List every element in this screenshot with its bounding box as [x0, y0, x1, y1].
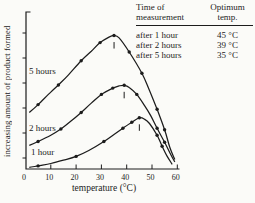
data-point — [130, 121, 133, 124]
temp-cell: 39 °C — [202, 40, 253, 50]
data-point — [123, 84, 126, 87]
data-point — [36, 140, 39, 143]
table-header-optimum: Optimum temp. — [202, 2, 253, 22]
data-point — [163, 128, 166, 131]
data-point — [102, 140, 105, 143]
temp-cell: 35 °C — [202, 50, 253, 60]
data-point — [163, 141, 166, 144]
data-point — [59, 127, 62, 130]
optimum-table-header: Time of measurement Optimum temp. — [136, 2, 253, 26]
data-point — [57, 83, 60, 86]
y-axis-label: increasing amount of product formed — [2, 12, 12, 170]
data-point — [80, 111, 83, 114]
x-tick-label: 40 — [121, 173, 129, 182]
x-tick-label: 60 — [172, 173, 180, 182]
data-point — [155, 134, 158, 137]
time-cell: after 5 hours — [136, 50, 202, 60]
data-point — [135, 93, 138, 96]
table-row: after 2 hours 39 °C — [136, 40, 253, 50]
temp-cell: 45 °C — [202, 30, 253, 40]
data-point — [111, 86, 114, 89]
data-point — [36, 103, 39, 106]
table-row: after 1 hour 45 °C — [136, 30, 253, 40]
series-label: 5 hours — [29, 66, 56, 76]
data-point — [155, 127, 158, 130]
data-point — [121, 127, 124, 130]
data-point — [128, 50, 131, 53]
x-tick-label: 20 — [71, 173, 79, 182]
table-header-time: Time of measurement — [136, 2, 202, 22]
enzyme-temperature-figure: 01020304050605 hours2 hours1 hour increa… — [0, 0, 255, 203]
data-point — [100, 93, 103, 96]
data-point — [138, 116, 141, 119]
time-cell: after 1 hour — [136, 30, 202, 40]
series-label: 2 hours — [29, 123, 56, 133]
data-point — [140, 72, 143, 75]
x-axis-label: temperature (°C) — [38, 183, 170, 193]
series-label: 1 hour — [31, 147, 54, 157]
data-point — [112, 34, 115, 37]
x-tick-label: 30 — [96, 173, 104, 182]
data-point — [80, 59, 83, 62]
data-point — [160, 145, 163, 148]
time-cell: after 2 hours — [136, 40, 202, 50]
x-tick-label: 0 — [22, 173, 26, 182]
table-row: after 5 hours 35 °C — [136, 50, 253, 60]
data-point — [155, 108, 158, 111]
optimum-table: Time of measurement Optimum temp. after … — [136, 2, 253, 60]
x-tick-label: 10 — [45, 173, 53, 182]
optimum-table-body: after 1 hour 45 °C after 2 hours 39 °C a… — [136, 30, 253, 60]
data-point — [98, 41, 101, 44]
data-point — [74, 155, 77, 158]
data-point — [36, 164, 39, 167]
x-tick-label: 50 — [147, 173, 155, 182]
